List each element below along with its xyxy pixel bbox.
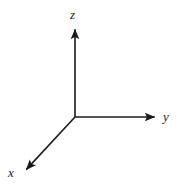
axes-drawing [0, 0, 178, 186]
coordinate-axes-figure: z y x [0, 0, 178, 186]
z-axis-label: z [70, 8, 75, 21]
x-axis-line [26, 117, 75, 170]
y-axis-label: y [163, 110, 169, 123]
x-axis-label: x [8, 166, 14, 179]
